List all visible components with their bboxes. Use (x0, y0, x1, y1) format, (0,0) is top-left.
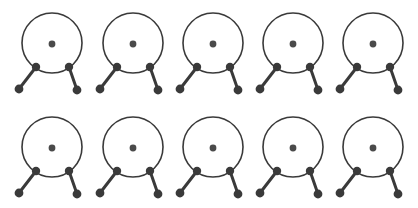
right-node-dot (146, 167, 154, 175)
right-node-dot (226, 63, 234, 71)
right-foot-dot (234, 86, 243, 95)
right-node-dot (386, 63, 394, 71)
left-foot-dot (15, 189, 24, 198)
right-foot-dot (314, 86, 323, 95)
left-node-dot (273, 167, 281, 175)
glyph-grid (0, 0, 418, 208)
left-foot-dot (256, 189, 265, 198)
center-dot (370, 145, 377, 152)
left-foot-dot (15, 85, 24, 94)
center-dot (210, 41, 217, 48)
center-dot (130, 41, 137, 48)
center-dot (49, 145, 56, 152)
center-dot (49, 41, 56, 48)
right-foot-dot (154, 190, 163, 199)
right-foot-dot (234, 190, 243, 199)
right-node-dot (65, 63, 73, 71)
right-node-dot (226, 167, 234, 175)
left-node-dot (32, 167, 40, 175)
left-node-dot (273, 63, 281, 71)
right-node-dot (386, 167, 394, 175)
center-dot (210, 145, 217, 152)
left-node-dot (113, 63, 121, 71)
center-dot (290, 145, 297, 152)
right-node-dot (146, 63, 154, 71)
center-dot (290, 41, 297, 48)
right-node-dot (306, 167, 314, 175)
left-foot-dot (96, 189, 105, 198)
right-foot-dot (73, 86, 82, 95)
left-node-dot (193, 63, 201, 71)
glyph-canvas (0, 0, 418, 208)
left-foot-dot (336, 85, 345, 94)
right-foot-dot (154, 86, 163, 95)
left-node-dot (193, 167, 201, 175)
right-node-dot (65, 167, 73, 175)
right-node-dot (306, 63, 314, 71)
center-dot (130, 145, 137, 152)
left-foot-dot (176, 85, 185, 94)
left-foot-dot (256, 85, 265, 94)
left-node-dot (353, 63, 361, 71)
right-foot-dot (73, 190, 82, 199)
left-node-dot (353, 167, 361, 175)
left-foot-dot (96, 85, 105, 94)
left-node-dot (113, 167, 121, 175)
center-dot (370, 41, 377, 48)
right-foot-dot (394, 190, 403, 199)
left-foot-dot (176, 189, 185, 198)
left-node-dot (32, 63, 40, 71)
right-foot-dot (314, 190, 323, 199)
left-foot-dot (336, 189, 345, 198)
right-foot-dot (394, 86, 403, 95)
